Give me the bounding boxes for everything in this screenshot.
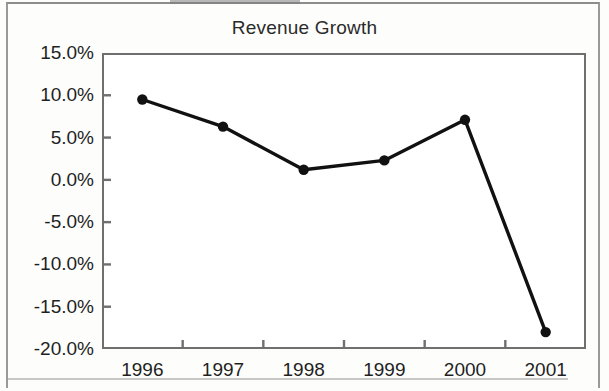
x-axis-tick-label: 2001 [505,359,586,381]
x-axis-tick-label: 1998 [263,359,344,381]
y-axis-tick-label: 15.0% [18,42,94,64]
y-axis-tick-label: -20.0% [18,338,94,360]
page-border-smudge [170,0,300,4]
x-axis-tick-label: 1999 [344,359,425,381]
plot-area [102,53,586,349]
y-axis-tick-label: 10.0% [18,84,94,106]
y-axis-tick-label: 5.0% [18,127,94,149]
y-axis-tick-label: -10.0% [18,253,94,275]
y-axis-tick-label: -15.0% [18,296,94,318]
x-axis-tick-label: 2000 [425,359,506,381]
chart-title: Revenue Growth [0,17,609,39]
x-axis-tick-label: 1996 [102,359,183,381]
x-axis-tick-label: 1997 [183,359,264,381]
chart-screenshot: Revenue Growth 15.0%10.0%5.0%0.0%-5.0%-1… [0,0,609,391]
y-axis-tick-label: 0.0% [18,169,94,191]
y-axis-tick-label: -5.0% [18,211,94,233]
